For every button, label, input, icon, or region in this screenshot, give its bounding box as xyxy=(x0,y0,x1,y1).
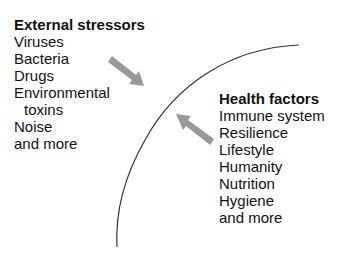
health-item: Lifestyle xyxy=(219,141,325,158)
health-arrow-icon xyxy=(176,114,214,145)
health-item: and more xyxy=(219,209,325,226)
health-factors-list: Health factors Immune system Resilience … xyxy=(219,90,325,226)
health-item: Humanity xyxy=(219,158,325,175)
health-item: Resilience xyxy=(219,124,325,141)
health-item: Nutrition xyxy=(219,175,325,192)
health-item: Immune system xyxy=(219,107,325,124)
health-factors-title: Health factors xyxy=(219,90,325,107)
stressor-item: Bacteria xyxy=(14,50,145,67)
external-stressors-list: External stressors Viruses Bacteria Drug… xyxy=(14,16,145,152)
stressor-item: Drugs xyxy=(14,67,145,84)
stressor-item: Viruses xyxy=(14,33,145,50)
external-stressors-title: External stressors xyxy=(14,16,145,33)
stressor-item: toxins xyxy=(14,101,145,118)
stressor-item: and more xyxy=(14,135,145,152)
stressor-item: Noise xyxy=(14,118,145,135)
stressor-item: Environmental xyxy=(14,84,145,101)
health-item: Hygiene xyxy=(219,192,325,209)
